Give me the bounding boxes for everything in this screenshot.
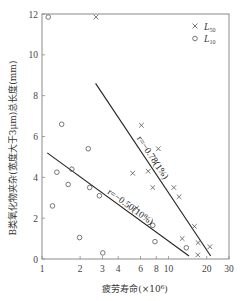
y-axis: 024681012: [29, 10, 46, 265]
circle-marker: [55, 170, 60, 175]
y-tick-label: 10: [29, 50, 39, 60]
plot-border: [42, 14, 229, 259]
cross-marker: [195, 253, 200, 258]
x-tick-label: 8: [154, 264, 159, 274]
circle-marker-icon: [193, 36, 198, 41]
cross-marker: [139, 123, 144, 128]
circle-marker: [153, 239, 158, 244]
circle-marker: [86, 146, 91, 151]
circle-marker: [59, 122, 64, 127]
cross-marker: [177, 194, 182, 199]
cross-marker: [192, 224, 197, 229]
circle-marker: [46, 15, 51, 20]
correlation-annotation-l10: r=−0.50(10%): [105, 187, 155, 228]
x-tick-label: 1: [40, 264, 45, 274]
circle-marker: [66, 182, 71, 187]
legend: L50 L10: [193, 21, 216, 45]
cross-marker: [150, 185, 155, 190]
cross-marker: [208, 244, 213, 249]
x-tick-label: 6: [138, 264, 143, 274]
cross-marker: [172, 185, 177, 190]
fit-lines: [47, 83, 210, 256]
y-tick-label: 12: [29, 10, 39, 20]
scatter-chart: 123468102030 024681012 r=−0.78(1%)r=−0.5…: [0, 0, 243, 301]
y-tick-label: 2: [33, 214, 38, 224]
legend-label-l50: L50: [203, 21, 216, 33]
x-tick-label: 30: [224, 264, 234, 274]
y-tick-label: 6: [33, 132, 38, 142]
legend-label-l10: L10: [203, 33, 216, 45]
x-tick-label: 4: [116, 264, 121, 274]
circle-marker: [87, 185, 92, 190]
cross-marker: [130, 171, 135, 176]
cross-marker: [146, 169, 151, 174]
x-tick-label: 3: [100, 264, 105, 274]
y-axis-title: B类氧化物夹杂(宽度大于3μm)总长度(mm): [7, 61, 18, 236]
circle-marker: [184, 245, 189, 250]
x-tick-label: 20: [202, 264, 212, 274]
plot-frame: [42, 14, 229, 259]
y-tick-label: 4: [33, 173, 38, 183]
correlation-annotation-l50: r=−0.78(1%): [134, 134, 171, 181]
cross-marker: [196, 240, 201, 245]
circle-marker: [77, 235, 82, 240]
y-tick-label: 0: [33, 255, 38, 265]
cross-marker: [94, 15, 99, 20]
x-tick-label: 10: [164, 264, 174, 274]
x-axis-title: 疲劳寿命(×10⁶): [102, 283, 168, 294]
legend-item-l50: L50: [193, 21, 216, 33]
cross-marker: [156, 146, 161, 151]
circle-marker: [100, 251, 105, 256]
cross-marker: [180, 236, 185, 241]
y-tick-label: 8: [33, 91, 38, 101]
fit-line-l10: [47, 153, 189, 256]
legend-item-l10: L10: [193, 33, 216, 45]
circle-marker: [50, 204, 55, 209]
cross-marker-icon: [193, 24, 198, 29]
x-tick-label: 2: [78, 264, 83, 274]
circle-marker: [97, 193, 102, 198]
